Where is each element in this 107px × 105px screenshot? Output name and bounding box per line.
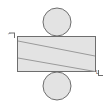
technical-diagram: ⌐ L (0, 0, 107, 105)
top-left-dimension-label: ⌐ (8, 31, 11, 36)
top-roller-circle (43, 8, 71, 36)
bottom-roller-circle (43, 72, 71, 100)
diagram-canvas (0, 0, 107, 105)
bottom-right-dimension-label: L (96, 70, 99, 75)
bottom-right-tick-mark (99, 70, 104, 76)
